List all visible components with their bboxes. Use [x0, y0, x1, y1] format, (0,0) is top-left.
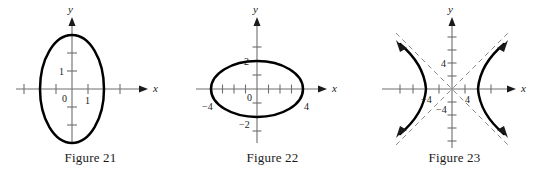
origin-label: 0 [62, 93, 67, 104]
y-axis-label: y [447, 3, 453, 15]
figure-21: x y 0 1 1 Figure 21 [0, 0, 181, 182]
figure-23: x y −4 4 4 −4 Figure 23 [364, 0, 545, 182]
figure-22-plot: x y 0 −4 4 2 −2 [182, 0, 363, 152]
x-axis-arrowhead [507, 86, 516, 93]
y-tick-label-1: 1 [59, 66, 64, 77]
x-axis-label: x [331, 82, 337, 94]
x-label-4: 4 [465, 94, 470, 105]
x-axis-label: x [520, 82, 526, 94]
x-axis-label: x [152, 82, 158, 94]
x-axis-arrowhead [139, 86, 148, 93]
y-axis-label: y [67, 3, 73, 15]
figure-23-plot: x y −4 4 4 −4 [364, 0, 545, 152]
x-label-neg4: −4 [202, 101, 213, 112]
y-label-4: 4 [441, 58, 446, 69]
figure-22-caption: Figure 22 [182, 150, 363, 166]
x-axis-arrowhead [318, 86, 327, 93]
figure-21-caption: Figure 21 [0, 150, 181, 166]
y-label-2: 2 [244, 56, 249, 67]
x-label-neg4: −4 [421, 94, 432, 105]
figure-22: x y 0 −4 4 2 −2 Figure 22 [182, 0, 363, 182]
y-axis-arrowhead [254, 17, 261, 26]
y-label-neg2: −2 [239, 119, 250, 130]
y-label-neg4: −4 [436, 104, 447, 115]
figure-23-caption: Figure 23 [364, 150, 545, 166]
x-tick-label-1: 1 [85, 95, 90, 106]
y-axis-label: y [252, 3, 258, 15]
figure-21-plot: x y 0 1 1 [0, 0, 181, 152]
origin-label: 0 [247, 92, 252, 103]
figure-sheet: x y 0 1 1 Figure 21 [0, 0, 545, 182]
x-label-4: 4 [304, 101, 309, 112]
y-axis-arrowhead [449, 17, 456, 26]
y-axis-arrowhead [69, 17, 76, 26]
